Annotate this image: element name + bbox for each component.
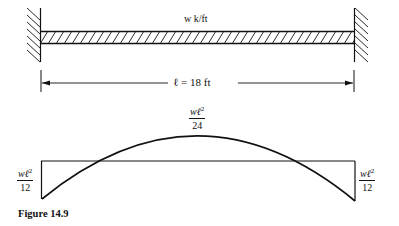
- right-end-moment-numerator: wℓ2: [359, 168, 375, 181]
- left-end-moment-numerator: wℓ2: [17, 168, 33, 181]
- arrowhead-left-icon: [42, 81, 50, 86]
- span-label: ℓ = 18 ft: [171, 76, 212, 88]
- beam: [40, 32, 354, 44]
- load-label: w k/ft: [184, 13, 208, 24]
- figure-caption: Figure 14.9: [18, 208, 69, 219]
- left-end-moment-denominator: 12: [20, 181, 30, 193]
- right-fixed-support: [355, 8, 369, 62]
- left-fixed-support: [27, 8, 41, 62]
- midspan-moment-label: wℓ2 24: [189, 106, 205, 131]
- span-label-text: ℓ = 18 ft: [173, 76, 210, 88]
- right-end-moment-label: wℓ2 12: [359, 168, 375, 193]
- midspan-moment-denominator: 24: [192, 119, 202, 131]
- right-end-moment-denominator: 12: [362, 181, 372, 193]
- left-end-moment-label: wℓ2 12: [17, 168, 33, 193]
- midspan-moment-numerator: wℓ2: [189, 106, 205, 119]
- moment-curve: [42, 136, 355, 201]
- arrowhead-right-icon: [345, 81, 353, 86]
- moment-diagram: [41, 136, 355, 201]
